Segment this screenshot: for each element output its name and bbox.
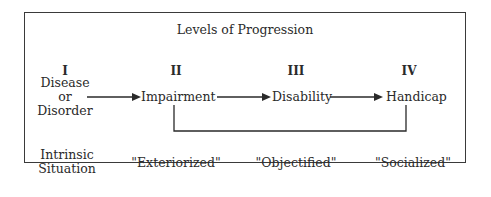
level-4-descriptor: "Socialized" xyxy=(375,156,451,170)
level-1-descriptor-line2: Situation xyxy=(38,162,96,176)
level-2-descriptor: "Exteriorized" xyxy=(131,156,221,170)
level-1-descriptor-line1: Intrinsic xyxy=(40,148,93,162)
level-3-descriptor: "Objectified" xyxy=(256,156,337,170)
